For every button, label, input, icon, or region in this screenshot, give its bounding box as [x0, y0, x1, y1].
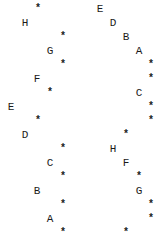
leaf-marker: * [147, 101, 155, 113]
leaf-marker: * [147, 73, 155, 85]
right-tree: EDBA**C***HF*G*** [0, 0, 166, 249]
tree-node-d: D [109, 17, 117, 29]
leaf-marker: * [135, 171, 143, 183]
leaf-marker: * [147, 213, 155, 225]
tree-node-c: C [135, 87, 143, 99]
tree-node-f: F [122, 157, 130, 169]
tree-node-g: G [135, 185, 143, 197]
leaf-marker: * [122, 227, 130, 239]
leaf-marker: * [147, 115, 155, 127]
tree-node-e: E [96, 3, 104, 15]
leaf-marker: * [122, 129, 130, 141]
tree-node-h: H [109, 143, 117, 155]
tree-node-b: B [122, 31, 130, 43]
leaf-marker: * [147, 59, 155, 71]
leaf-marker: * [147, 199, 155, 211]
tree-node-a: A [135, 45, 143, 57]
